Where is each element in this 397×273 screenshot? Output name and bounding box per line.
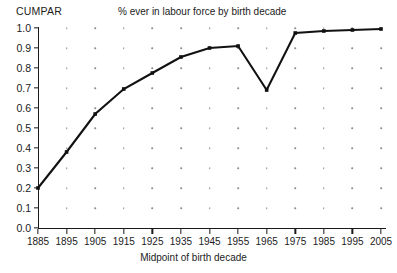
grid-dot [237, 67, 239, 69]
grid-dot [266, 167, 268, 169]
grid-dot [180, 107, 182, 109]
grid-dot [380, 67, 382, 69]
y-tick-label: 0.2 [1, 182, 31, 194]
grid-dot [180, 207, 182, 209]
y-axis-line [38, 27, 39, 229]
grid-dot [209, 67, 211, 69]
grid-dot [266, 147, 268, 149]
y-tick-label: 1.0 [1, 22, 31, 34]
y-tick-mark [34, 207, 38, 208]
grid-dot [180, 27, 182, 29]
grid-dot [152, 67, 154, 69]
y-axis-title: CUMPAR [16, 5, 62, 17]
grid-dot [380, 207, 382, 209]
grid-dot [266, 27, 268, 29]
grid-dot [209, 167, 211, 169]
grid-dot [323, 87, 325, 89]
grid-dot [237, 147, 239, 149]
grid-dot [380, 107, 382, 109]
y-tick-mark [34, 47, 38, 48]
y-tick-mark [34, 27, 38, 28]
grid-dot [294, 207, 296, 209]
grid-dot [209, 207, 211, 209]
grid-dot [266, 67, 268, 69]
grid-dot [237, 167, 239, 169]
grid-dot [152, 127, 154, 129]
grid-dot [237, 127, 239, 129]
grid-dot [209, 87, 211, 89]
grid-dot [380, 167, 382, 169]
x-tick-mark [295, 229, 296, 234]
grid-dot [294, 87, 296, 89]
grid-dot [94, 127, 96, 129]
x-tick-mark [266, 229, 267, 234]
grid-dot [94, 147, 96, 149]
grid-dot [266, 127, 268, 129]
y-tick-label: 0.0 [1, 222, 31, 234]
grid-dot [352, 207, 354, 209]
grid-dot [294, 47, 296, 49]
grid-dot [294, 147, 296, 149]
grid-dot [323, 127, 325, 129]
grid-dot [152, 167, 154, 169]
grid-dot [209, 47, 211, 49]
grid-dot [266, 47, 268, 49]
grid-dot [352, 127, 354, 129]
grid-dot [180, 47, 182, 49]
data-point-marker [293, 31, 297, 35]
y-tick-label: 0.5 [1, 122, 31, 134]
grid-dot [152, 87, 154, 89]
grid-dot [294, 27, 296, 29]
x-tick-mark [352, 229, 353, 234]
data-point-marker [151, 71, 155, 75]
grid-dot [94, 207, 96, 209]
grid-dot [209, 27, 211, 29]
y-tick-mark [34, 187, 38, 188]
grid-dot [152, 147, 154, 149]
grid-dot [266, 107, 268, 109]
grid-dot [352, 87, 354, 89]
x-axis-line [38, 228, 386, 229]
grid-dot [323, 187, 325, 189]
grid-dot [94, 27, 96, 29]
grid-dot [123, 167, 125, 169]
grid-dot [294, 107, 296, 109]
grid-dot [94, 67, 96, 69]
grid-dot [152, 207, 154, 209]
grid-dot [123, 107, 125, 109]
grid-dot [209, 147, 211, 149]
grid-dot [123, 147, 125, 149]
grid-dot [94, 107, 96, 109]
grid-dot [66, 87, 68, 89]
grid-dot [294, 187, 296, 189]
x-tick-mark [123, 229, 124, 234]
x-tick-mark [95, 229, 96, 234]
grid-dot [66, 127, 68, 129]
grid-dot [66, 207, 68, 209]
grid-dot [323, 147, 325, 149]
grid-dot [123, 127, 125, 129]
grid-dot [209, 127, 211, 129]
y-tick-label: 0.8 [1, 62, 31, 74]
grid-dot [237, 87, 239, 89]
grid-dot [180, 187, 182, 189]
grid-dot [237, 187, 239, 189]
grid-dot [66, 167, 68, 169]
grid-dot [123, 67, 125, 69]
grid-dot [352, 27, 354, 29]
grid-dot [323, 207, 325, 209]
grid-dot [66, 67, 68, 69]
data-point-marker [93, 112, 97, 116]
grid-dot [380, 147, 382, 149]
grid-dot [209, 187, 211, 189]
grid-dot [323, 107, 325, 109]
grid-dot [352, 147, 354, 149]
x-tick-mark [66, 229, 67, 234]
grid-dot [294, 67, 296, 69]
x-tick-mark [37, 229, 38, 234]
x-tick-mark [237, 229, 238, 234]
grid-dot [352, 107, 354, 109]
data-point-marker [65, 150, 69, 154]
x-tick-mark [323, 229, 324, 234]
